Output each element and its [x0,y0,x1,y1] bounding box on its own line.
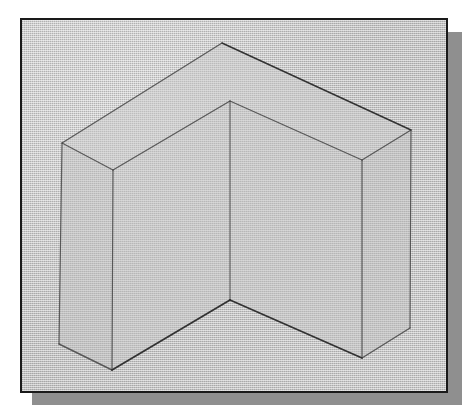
face-right-front-face [362,130,411,358]
picture-frame [20,18,448,393]
isometric-block-drawing [22,20,446,391]
face-left-front-face [59,143,113,370]
illustration-scene: Isometric L-shaped block (chevron prism)… [0,0,471,417]
